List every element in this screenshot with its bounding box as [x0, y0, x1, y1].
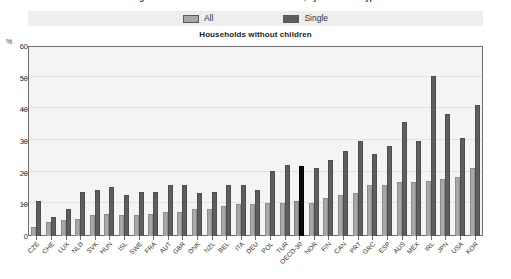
- bar-single[interactable]: [445, 114, 450, 236]
- x-tick-label: AUS: [392, 241, 406, 255]
- bar-group[interactable]: [58, 46, 73, 236]
- y-tick-mark: [22, 141, 27, 142]
- x-tick-label: NLD: [71, 241, 85, 255]
- bar-single[interactable]: [402, 122, 407, 236]
- bar-single[interactable]: [80, 192, 85, 236]
- bar-group[interactable]: [204, 46, 219, 236]
- y-tick-mark: [22, 204, 27, 205]
- bar-group[interactable]: [219, 46, 234, 236]
- figure-suptitle-text: Figure: share of households without chil…: [0, 0, 511, 2]
- x-label-cell: OECD-30: [292, 240, 307, 279]
- figure-suptitle-clipped: Figure: share of households without chil…: [0, 0, 511, 9]
- x-label-cell: GRC: [365, 240, 380, 279]
- x-label-cell: PRT: [350, 240, 365, 279]
- bar-single[interactable]: [270, 171, 275, 236]
- y-tick-mark: [22, 173, 27, 174]
- legend-entry[interactable]: All: [183, 14, 213, 23]
- bar-group[interactable]: [380, 46, 395, 236]
- x-tick-label: BEL: [218, 241, 231, 254]
- bar-single[interactable]: [460, 138, 465, 236]
- x-label-cell: GBR: [175, 240, 190, 279]
- chart-title: Households without children: [0, 30, 511, 39]
- x-tick-label: ITA: [234, 241, 245, 252]
- x-label-cell: SVK: [87, 240, 102, 279]
- x-tick-label: ISL: [117, 241, 129, 253]
- x-label-cell: LUX: [58, 240, 73, 279]
- bar-single[interactable]: [475, 105, 480, 236]
- bar-group[interactable]: [102, 46, 117, 236]
- bar-single[interactable]: [197, 193, 202, 236]
- legend-entry[interactable]: Single: [283, 14, 328, 23]
- bar-group[interactable]: [409, 46, 424, 236]
- legend-all-swatch-icon: [183, 15, 199, 23]
- x-label-cell: BEL: [219, 240, 234, 279]
- x-tick-label: AUT: [159, 241, 173, 255]
- bar-group[interactable]: [160, 46, 175, 236]
- x-tick-label: GRC: [362, 241, 377, 256]
- bar-single[interactable]: [431, 76, 436, 236]
- bar-group[interactable]: [277, 46, 292, 236]
- bar-single[interactable]: [358, 141, 363, 236]
- x-tick-label: POL: [261, 241, 275, 255]
- bar-group[interactable]: [438, 46, 453, 236]
- bar-group[interactable]: [307, 46, 322, 236]
- bar-single[interactable]: [36, 201, 41, 236]
- bar-group[interactable]: [117, 46, 132, 236]
- bar-single[interactable]: [416, 141, 421, 236]
- bar-single[interactable]: [66, 209, 71, 236]
- bar-group[interactable]: [73, 46, 88, 236]
- bar-single[interactable]: [168, 185, 173, 236]
- bar-single[interactable]: [139, 192, 144, 236]
- bar-single[interactable]: [285, 165, 290, 236]
- bar-group[interactable]: [29, 46, 44, 236]
- bar-group[interactable]: [423, 46, 438, 236]
- bar-single[interactable]: [212, 192, 217, 236]
- x-tick-label: CZE: [27, 241, 41, 255]
- bar-group[interactable]: [175, 46, 190, 236]
- bar-group[interactable]: [365, 46, 380, 236]
- bar-group[interactable]: [190, 46, 205, 236]
- y-tick-label: 60: [6, 42, 28, 51]
- bar-single[interactable]: [51, 217, 56, 236]
- x-label-cell: DEU: [248, 240, 263, 279]
- bar-single[interactable]: [241, 185, 246, 236]
- bar-single[interactable]: [387, 146, 392, 236]
- y-tick-mark: [22, 109, 27, 110]
- bar-group[interactable]: [263, 46, 278, 236]
- x-label-cell: CZE: [29, 240, 44, 279]
- bar-single[interactable]: [372, 154, 377, 236]
- bar-group[interactable]: [248, 46, 263, 236]
- bar-group[interactable]: [394, 46, 409, 236]
- bar-group[interactable]: [146, 46, 161, 236]
- x-label-cell: USA: [453, 240, 468, 279]
- bar-single[interactable]: [95, 190, 100, 236]
- bar-single[interactable]: [255, 190, 260, 236]
- bar-group[interactable]: [321, 46, 336, 236]
- bar-group[interactable]: [44, 46, 59, 236]
- bar-single[interactable]: [153, 192, 158, 236]
- bar-single[interactable]: [109, 187, 114, 236]
- bar-single[interactable]: [182, 185, 187, 236]
- x-label-cell: KOR: [467, 240, 482, 279]
- bar-group[interactable]: [292, 46, 307, 236]
- x-tick-label: JPN: [437, 241, 450, 254]
- bar-single[interactable]: [328, 160, 333, 236]
- x-tick-label: FRA: [144, 241, 158, 255]
- bar-single[interactable]: [299, 166, 304, 236]
- bar-group[interactable]: [453, 46, 468, 236]
- bar-group[interactable]: [87, 46, 102, 236]
- x-tick-label: NOR: [304, 241, 319, 256]
- bar-single[interactable]: [226, 185, 231, 236]
- x-axis-labels: CZECHELUXNLDSVKHUNISLSWEFRAAUTGBRDNKNZLB…: [28, 240, 483, 279]
- bar-group[interactable]: [350, 46, 365, 236]
- x-tick-label: CAN: [333, 241, 347, 255]
- bar-group[interactable]: [336, 46, 351, 236]
- x-tick-label: DNK: [187, 241, 201, 255]
- y-axis: 0102030405060: [0, 46, 28, 236]
- bar-group[interactable]: [234, 46, 249, 236]
- bar-group[interactable]: [131, 46, 146, 236]
- bar-single[interactable]: [314, 168, 319, 236]
- bar-single[interactable]: [343, 151, 348, 237]
- bar-group[interactable]: [467, 46, 482, 236]
- bar-single[interactable]: [124, 195, 129, 236]
